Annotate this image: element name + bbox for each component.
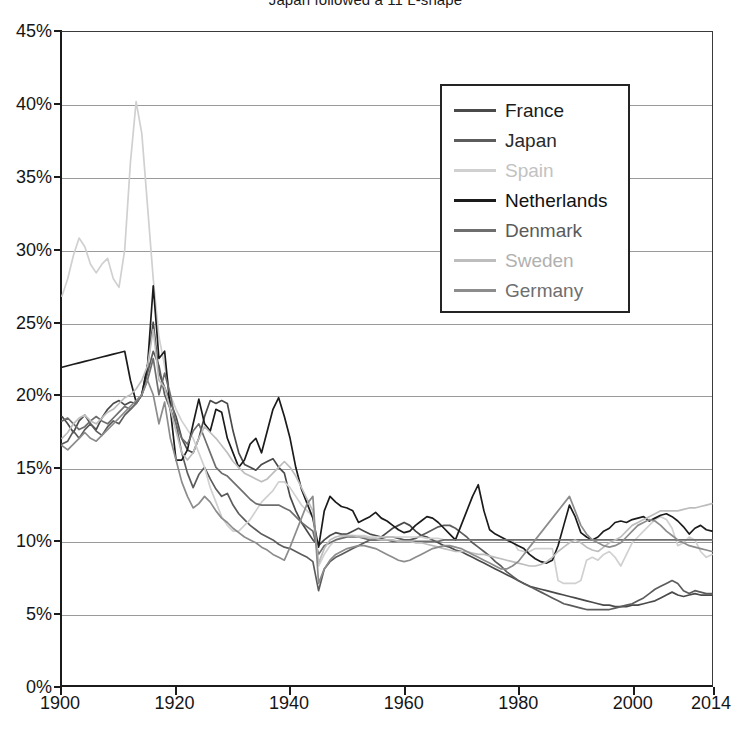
series-line-germany: [62, 380, 712, 583]
legend-label: Netherlands: [505, 191, 607, 210]
legend-label: Sweden: [505, 251, 574, 270]
series-line-denmark: [62, 359, 712, 555]
legend-swatch-icon: [454, 229, 496, 232]
legend-swatch-icon: [454, 199, 496, 202]
series-line-netherlands: [62, 286, 712, 563]
legend-label: Japan: [505, 131, 557, 150]
legend-label: Denmark: [505, 221, 582, 240]
legend-swatch-icon: [454, 109, 496, 112]
x-axis-tick-label: 1940: [269, 693, 309, 714]
line-chart: Japan followed a 11 L-shape 0%5%10%15%20…: [0, 0, 731, 735]
legend-label: Germany: [505, 281, 583, 300]
x-axis-tick-label: 1920: [155, 693, 195, 714]
legend-item-france[interactable]: France: [442, 95, 628, 125]
legend-swatch-icon: [454, 169, 496, 172]
x-axis-tick-label: 2000: [613, 693, 653, 714]
legend-swatch-icon: [454, 289, 496, 292]
legend-item-japan[interactable]: Japan: [442, 125, 628, 155]
legend-item-sweden[interactable]: Sweden: [442, 245, 628, 275]
x-axis-tick-label: 2014: [691, 693, 731, 714]
legend-swatch-icon: [454, 139, 496, 142]
legend-item-netherlands[interactable]: Netherlands: [442, 185, 628, 215]
legend-swatch-icon: [454, 259, 496, 262]
x-axis-tick-labels: 1900192019401960198020002014: [0, 693, 731, 733]
legend-item-denmark[interactable]: Denmark: [442, 215, 628, 245]
y-axis-tick-marks: [0, 31, 62, 687]
legend-item-spain[interactable]: Spain: [442, 155, 628, 185]
x-axis-tick-label: 1980: [498, 693, 538, 714]
legend-item-germany[interactable]: Germany: [442, 275, 628, 305]
chart-legend: FranceJapanSpainNetherlandsDenmarkSweden…: [440, 84, 630, 313]
chart-title: Japan followed a 11 L-shape: [0, 0, 731, 8]
legend-label: Spain: [505, 161, 554, 180]
x-axis-tick-label: 1960: [384, 693, 424, 714]
x-axis-tick-label: 1900: [40, 693, 80, 714]
legend-label: France: [505, 101, 564, 120]
